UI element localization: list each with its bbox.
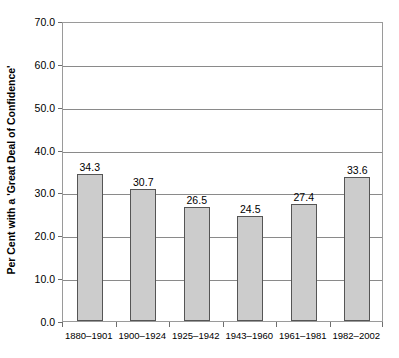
- bar: [344, 177, 370, 321]
- x-tick-label: 1982–2002: [326, 330, 386, 342]
- x-tick-mark: [116, 322, 117, 327]
- x-tick-mark: [169, 322, 170, 327]
- x-tick-mark: [276, 322, 277, 327]
- x-tick-mark: [330, 322, 331, 327]
- y-tick-label: 40.0: [10, 146, 62, 156]
- y-tick-label: 60.0: [10, 60, 62, 70]
- x-axis-ticks: [62, 322, 383, 328]
- x-tick-label: 1961–1981: [273, 330, 333, 342]
- bar: [130, 189, 156, 321]
- x-tick-mark: [62, 322, 63, 327]
- bar-value-label: 30.7: [117, 177, 169, 188]
- bar-value-label: 26.5: [171, 195, 223, 206]
- gridline: [63, 66, 382, 67]
- x-tick-label: 1880–1901: [59, 330, 119, 342]
- bar-value-label: 24.5: [224, 204, 276, 215]
- y-tick-label: 10.0: [10, 274, 62, 284]
- bar: [184, 207, 210, 321]
- x-tick-mark: [223, 322, 224, 327]
- y-tick-label: 30.0: [10, 188, 62, 198]
- x-tick-mark: [382, 322, 383, 327]
- bar: [77, 174, 103, 321]
- y-tick-label: 50.0: [10, 103, 62, 113]
- bar: [291, 204, 317, 321]
- plot-area: 34.330.726.524.527.433.6: [62, 22, 383, 322]
- gridline: [63, 280, 382, 281]
- bar-value-label: 34.3: [64, 162, 116, 173]
- bar: [237, 216, 263, 321]
- gridline: [63, 237, 382, 238]
- y-tick-label: 0.0: [10, 317, 62, 327]
- bar-value-label: 27.4: [278, 192, 330, 203]
- y-tick-label: 20.0: [10, 231, 62, 241]
- y-tick-label: 70.0: [10, 17, 62, 27]
- x-tick-label: 1943–1960: [219, 330, 279, 342]
- bar-value-label: 33.6: [331, 165, 383, 176]
- y-axis: 0.010.020.030.040.050.060.070.0: [0, 22, 62, 322]
- x-tick-label: 1900–1924: [112, 330, 172, 342]
- x-axis: 1880–19011900–19241925–19421943–19601961…: [62, 330, 383, 346]
- bar-chart: Per Cent with a 'Great Deal of Confidenc…: [0, 0, 399, 358]
- x-tick-label: 1925–1942: [166, 330, 226, 342]
- gridline: [63, 152, 382, 153]
- gridline: [63, 109, 382, 110]
